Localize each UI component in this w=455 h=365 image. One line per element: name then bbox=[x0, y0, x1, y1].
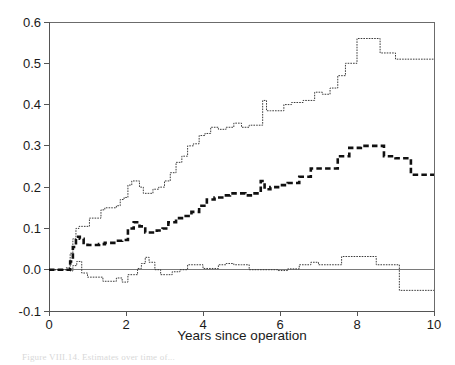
y-tick-label: 0.3 bbox=[23, 138, 41, 153]
x-tick-label: 2 bbox=[122, 317, 129, 332]
series-container bbox=[49, 39, 434, 291]
y-tick-label: 0.0 bbox=[23, 262, 41, 277]
y-tick-label: 0.1 bbox=[23, 221, 41, 236]
series-lower-band bbox=[49, 257, 434, 291]
y-tick-label: 0.6 bbox=[23, 15, 41, 30]
x-tick-label: 8 bbox=[353, 317, 360, 332]
x-axis-title: Years since operation bbox=[177, 328, 306, 343]
figure-root: -0.10.00.10.20.30.40.50.6 0246810 Years … bbox=[0, 0, 455, 365]
y-tick-label: 0.4 bbox=[23, 97, 41, 112]
figure-caption: Figure VIII.14. Estimates over time of..… bbox=[22, 352, 175, 362]
y-tick-label: 0.5 bbox=[23, 56, 41, 71]
y-tick-label: -0.1 bbox=[19, 304, 41, 319]
y-tick-label: 0.2 bbox=[23, 180, 41, 195]
series-upper-band bbox=[49, 39, 434, 270]
plot-frame bbox=[49, 22, 434, 311]
plot-frame-border bbox=[49, 22, 434, 311]
step-function-chart: -0.10.00.10.20.30.40.50.6 0246810 Years … bbox=[0, 0, 455, 365]
x-tick-label: 10 bbox=[427, 317, 441, 332]
x-tick-label: 0 bbox=[45, 317, 52, 332]
y-axis-ticks: -0.10.00.10.20.30.40.50.6 bbox=[19, 15, 49, 319]
